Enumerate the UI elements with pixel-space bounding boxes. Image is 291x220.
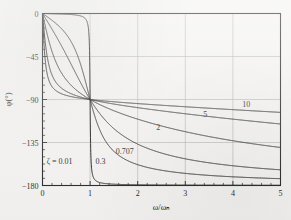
y-axis-tick-label: −90: [26, 96, 39, 105]
phase-plot-svg: 012345 0−45−90−135−180 ζ = 0.010.30.7072…: [0, 0, 291, 220]
y-axis-title: φ(°): [3, 92, 13, 106]
curve-label-10: 10: [242, 100, 250, 109]
y-axis-tick-labels: 0−45−90−135−180: [22, 10, 39, 191]
curve-annotations-group: ζ = 0.010.30.7072510: [47, 100, 251, 166]
curve-label-5: 5: [203, 110, 207, 119]
data-curve: [43, 14, 281, 148]
curve-label-zeta-0-01: ζ = 0.01: [47, 157, 73, 166]
y-axis-tick-label: −135: [22, 139, 39, 148]
x-axis-tick-label: 3: [183, 189, 187, 198]
data-curve: [43, 14, 281, 113]
x-axis-tick-label: 4: [231, 189, 235, 198]
curve-label-0-707: 0.707: [116, 147, 134, 156]
axis-titles-group: ω/ωₙφ(°): [3, 92, 170, 211]
x-axis-tick-label: 2: [136, 189, 140, 198]
curve-label-2: 2: [156, 123, 160, 132]
bode-phase-figure: 012345 0−45−90−135−180 ζ = 0.010.30.7072…: [0, 0, 291, 220]
x-axis-tick-label: 0: [41, 189, 45, 198]
x-axis-title: ω/ωₙ: [153, 202, 171, 212]
y-axis-tick-label: 0: [35, 10, 39, 19]
x-axis-tick-label: 5: [279, 189, 283, 198]
x-axis-tick-labels: 012345: [41, 189, 283, 198]
x-axis-tick-label: 1: [88, 189, 92, 198]
y-axis-tick-label: −45: [26, 53, 39, 62]
y-axis-tick-label: −180: [22, 182, 39, 191]
curve-label-0-3: 0.3: [96, 157, 106, 166]
